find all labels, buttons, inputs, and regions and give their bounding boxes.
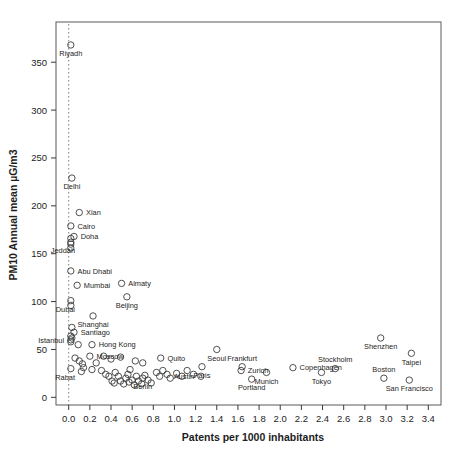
point-label: Xian bbox=[86, 208, 101, 217]
y-tick-label: 350 bbox=[31, 57, 47, 68]
data-point-labeled bbox=[239, 364, 245, 370]
point-label: Jeddah bbox=[51, 246, 75, 255]
data-point bbox=[132, 358, 138, 364]
point-labels-group: RiyadhDelhiXianCairoDohaJeddahAbu DhabiM… bbox=[38, 49, 433, 393]
x-tick-label: 2.6 bbox=[337, 413, 350, 424]
data-point bbox=[89, 366, 95, 372]
point-label: San Francisco bbox=[386, 384, 433, 393]
point-label: Istanbul bbox=[38, 336, 64, 345]
data-point bbox=[140, 360, 146, 366]
data-point bbox=[98, 367, 104, 373]
x-axis-ticks: 0.00.20.40.60.81.01.21.41.61.82.02.22.42… bbox=[62, 405, 435, 424]
y-tick-label: 200 bbox=[31, 200, 47, 211]
y-axis-label: PM10 Annual mean µG/m3 bbox=[7, 149, 19, 280]
point-label: Rabat bbox=[55, 373, 75, 382]
x-tick-label: 1.2 bbox=[189, 413, 202, 424]
point-label: Tokyo bbox=[312, 377, 331, 386]
data-point-labeled bbox=[199, 364, 205, 370]
data-point-labeled bbox=[238, 367, 244, 373]
y-tick-label: 250 bbox=[31, 152, 47, 163]
point-label: Copenhagen bbox=[300, 363, 342, 372]
point-label: Mumbai bbox=[84, 281, 111, 290]
point-label: Santiago bbox=[81, 328, 110, 337]
data-point-labeled bbox=[408, 350, 414, 356]
x-tick-label: 0.8 bbox=[147, 413, 160, 424]
y-tick-label: 150 bbox=[31, 248, 47, 259]
x-tick-label: 0.2 bbox=[83, 413, 96, 424]
data-point-labeled bbox=[158, 355, 164, 361]
point-label: Berlin bbox=[133, 382, 152, 391]
point-label: Beijing bbox=[116, 301, 138, 310]
point-label: Austin bbox=[174, 372, 195, 381]
point-label: Portland bbox=[238, 383, 266, 392]
x-tick-label: 0.4 bbox=[104, 413, 117, 424]
x-axis-label: Patents per 1000 inhabitants bbox=[182, 431, 325, 443]
x-tick-label: 1.8 bbox=[252, 413, 265, 424]
data-point bbox=[160, 367, 166, 373]
data-point bbox=[78, 368, 84, 374]
point-label: Hong Kong bbox=[99, 340, 136, 349]
point-label: Quito bbox=[167, 354, 185, 363]
x-tick-label: 1.0 bbox=[168, 413, 181, 424]
point-label: Boston bbox=[372, 365, 395, 374]
x-tick-label: 3.4 bbox=[422, 413, 435, 424]
point-label: Almaty bbox=[128, 279, 151, 288]
point-label: Stockholm bbox=[318, 355, 353, 364]
data-point-labeled bbox=[89, 341, 95, 347]
data-point-labeled bbox=[406, 377, 412, 383]
y-tick-label: 50 bbox=[36, 344, 47, 355]
y-axis-ticks: 050100150200250300350 bbox=[31, 57, 56, 403]
point-label: Seoul bbox=[207, 354, 226, 363]
x-tick-label: 0.0 bbox=[62, 413, 75, 424]
data-point-labeled bbox=[90, 313, 96, 319]
point-label: Frankfurt bbox=[227, 354, 257, 363]
point-label: Zurich bbox=[248, 366, 269, 375]
point-label: Abu Dhabi bbox=[78, 267, 113, 276]
data-point-labeled bbox=[378, 335, 384, 341]
data-point-labeled bbox=[118, 280, 124, 286]
y-tick-label: 0 bbox=[42, 392, 47, 403]
x-tick-label: 2.4 bbox=[316, 413, 329, 424]
data-point-labeled bbox=[68, 268, 74, 274]
data-point bbox=[80, 364, 86, 370]
point-label: Paris bbox=[194, 371, 211, 380]
x-tick-label: 1.4 bbox=[210, 413, 223, 424]
scatter-plot-figure: 0.00.20.40.60.81.01.21.41.61.82.02.22.42… bbox=[0, 0, 453, 451]
x-tick-label: 2.2 bbox=[295, 413, 308, 424]
point-label: Riyadh bbox=[59, 49, 82, 58]
point-label: Delhi bbox=[63, 182, 80, 191]
y-tick-label: 100 bbox=[31, 296, 47, 307]
point-label: Shenzhen bbox=[364, 342, 397, 351]
point-label: Dubai bbox=[56, 305, 76, 314]
data-point-labeled bbox=[214, 346, 220, 352]
point-label: Moscow bbox=[97, 352, 125, 361]
x-tick-label: 3.2 bbox=[401, 413, 414, 424]
point-label: Taipei bbox=[402, 358, 422, 367]
data-point-labeled bbox=[69, 175, 75, 181]
data-point bbox=[75, 341, 81, 347]
x-tick-label: 2.0 bbox=[274, 413, 287, 424]
x-tick-label: 1.6 bbox=[231, 413, 244, 424]
data-point-labeled bbox=[381, 375, 387, 381]
point-label: Doha bbox=[81, 232, 100, 241]
plot-canvas: 0.00.20.40.60.81.01.21.41.61.82.02.22.42… bbox=[0, 0, 453, 451]
x-tick-label: 2.8 bbox=[358, 413, 371, 424]
data-point-labeled bbox=[76, 209, 82, 215]
data-point-labeled bbox=[68, 223, 74, 229]
x-tick-label: 3.0 bbox=[379, 413, 392, 424]
data-points-group bbox=[68, 42, 415, 388]
data-point-labeled bbox=[74, 282, 80, 288]
data-point-labeled bbox=[290, 364, 296, 370]
point-label: Cairo bbox=[78, 222, 96, 231]
x-tick-label: 0.6 bbox=[126, 413, 139, 424]
y-tick-label: 300 bbox=[31, 105, 47, 116]
data-point-labeled bbox=[87, 353, 93, 359]
data-point-labeled bbox=[124, 294, 130, 300]
